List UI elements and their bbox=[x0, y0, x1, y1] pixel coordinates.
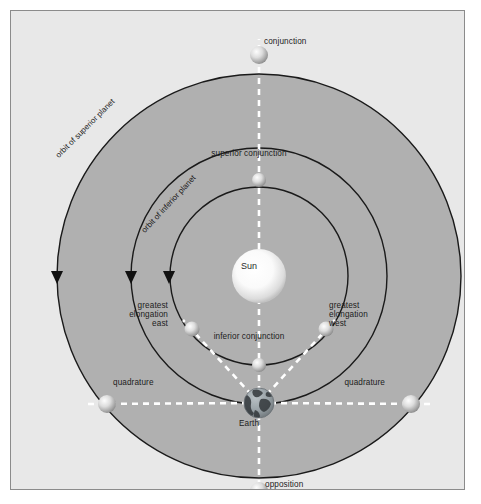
earth-label: Earth bbox=[239, 419, 259, 428]
planetary-configurations-figure: Sun orbit of superior planet orbit of in… bbox=[0, 0, 481, 504]
planet-quadrature-west bbox=[402, 395, 420, 413]
planet-superior-conjunction bbox=[252, 173, 266, 187]
planet-greatest-elongation-east bbox=[185, 322, 200, 337]
conjunction-label: conjunction bbox=[264, 37, 307, 46]
greatest-elongation-east-label: greatest elongation east bbox=[129, 301, 168, 329]
planet-quadrature-east bbox=[98, 395, 116, 413]
diagram-frame: Sun orbit of superior planet orbit of in… bbox=[10, 10, 465, 490]
sun-label: Sun bbox=[241, 261, 257, 271]
diagram-canvas bbox=[11, 11, 465, 490]
planet-conjunction bbox=[250, 46, 268, 64]
sun-body bbox=[232, 249, 286, 303]
greatest-elongation-west-label: greatest elongation west bbox=[329, 301, 368, 329]
superior-conjunction-label: superior conjunction bbox=[211, 149, 286, 158]
planet-inferior-conjunction bbox=[252, 358, 266, 372]
quadrature-west-label: quadrature bbox=[344, 378, 385, 387]
opposition-label: opposition bbox=[265, 480, 303, 489]
inferior-conjunction-label: inferior conjunction bbox=[214, 332, 285, 341]
quadrature-east-label: quadrature bbox=[113, 378, 154, 387]
